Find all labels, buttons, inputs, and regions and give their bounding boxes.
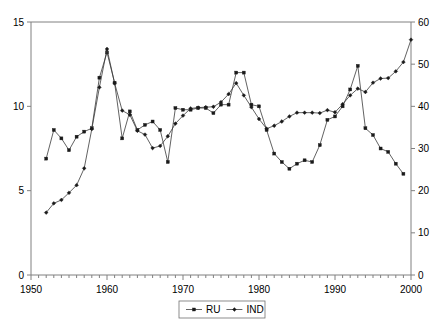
data-point-ind xyxy=(409,38,413,42)
data-point-ind xyxy=(143,133,147,137)
y-axis-left-tick-label: 5 xyxy=(18,185,24,196)
data-point-ru xyxy=(318,144,321,147)
data-point-ru xyxy=(121,137,124,140)
data-point-ru xyxy=(273,152,276,155)
y-axis-left-tick-label: 15 xyxy=(13,17,25,28)
y-axis-right-tick-label: 30 xyxy=(418,143,430,154)
line-chart: 0510150102030405060195019601970198019902… xyxy=(0,0,442,335)
data-point-ru xyxy=(311,160,314,163)
data-point-ru xyxy=(394,162,397,165)
y-axis-left-tick-label: 0 xyxy=(18,270,24,281)
data-point-ru xyxy=(159,128,162,131)
data-point-ind xyxy=(105,47,109,51)
legend-label-ind: IND xyxy=(246,304,263,315)
data-point-ru xyxy=(372,134,375,137)
y-axis-right-tick-label: 20 xyxy=(418,185,430,196)
data-point-ind xyxy=(212,105,216,109)
data-point-ru xyxy=(303,159,306,162)
x-axis-tick-label: 1980 xyxy=(248,284,271,295)
x-axis-tick-label: 1990 xyxy=(324,284,347,295)
y-axis-right-tick-label: 60 xyxy=(418,17,430,28)
data-point-ind xyxy=(295,111,299,115)
data-point-ind xyxy=(303,111,307,115)
data-point-ind xyxy=(151,146,155,150)
data-point-ru xyxy=(296,162,299,165)
data-point-ru xyxy=(212,112,215,115)
legend-label-ru: RU xyxy=(206,304,220,315)
legend-swatch-marker-ru xyxy=(193,308,196,311)
y-axis-right-tick-label: 10 xyxy=(418,227,430,238)
x-axis-tick-label: 1950 xyxy=(20,284,43,295)
y-axis-right-tick-label: 50 xyxy=(418,59,430,70)
data-point-ru xyxy=(288,167,291,170)
y-axis-right-tick-label: 40 xyxy=(418,101,430,112)
data-point-ru xyxy=(387,150,390,153)
data-point-ru xyxy=(174,107,177,110)
data-point-ru xyxy=(258,105,261,108)
data-point-ru xyxy=(60,137,63,140)
y-axis-right-tick-label: 0 xyxy=(418,270,424,281)
data-point-ru xyxy=(364,127,367,130)
data-point-ru xyxy=(52,128,55,131)
data-point-ru xyxy=(349,88,352,91)
x-axis-tick-label: 1970 xyxy=(172,284,195,295)
data-point-ru xyxy=(98,76,101,79)
data-point-ind xyxy=(318,111,322,115)
data-point-ind xyxy=(272,124,276,128)
data-point-ru xyxy=(227,103,230,106)
data-point-ru xyxy=(402,172,405,175)
data-point-ind xyxy=(120,109,124,113)
data-point-ru xyxy=(182,108,185,111)
data-point-ru xyxy=(75,135,78,138)
chart-legend: RUIND xyxy=(179,301,265,318)
y-axis-left-tick-label: 10 xyxy=(13,101,25,112)
data-point-ru xyxy=(235,71,238,74)
series-ru xyxy=(45,51,405,175)
data-point-ru xyxy=(334,115,337,118)
data-point-ru xyxy=(379,147,382,150)
x-axis-tick-label: 2000 xyxy=(400,284,423,295)
figure-caption xyxy=(0,326,442,335)
data-point-ru xyxy=(128,110,131,113)
chart-figure: 0510150102030405060195019601970198019902… xyxy=(0,0,442,335)
data-point-ind xyxy=(326,108,330,112)
data-point-ru xyxy=(151,120,154,123)
data-point-ru xyxy=(68,149,71,152)
data-point-ru xyxy=(326,118,329,121)
data-point-ru xyxy=(144,123,147,126)
series-line-ru xyxy=(46,52,403,173)
data-point-ru xyxy=(166,160,169,163)
data-point-ru xyxy=(280,160,283,163)
x-axis-tick-label: 1960 xyxy=(96,284,119,295)
data-point-ru xyxy=(45,157,48,160)
data-point-ru xyxy=(356,64,359,67)
data-point-ind xyxy=(310,111,314,115)
data-point-ru xyxy=(83,130,86,133)
data-point-ind xyxy=(82,166,86,170)
data-point-ind xyxy=(379,77,383,81)
data-point-ru xyxy=(242,71,245,74)
